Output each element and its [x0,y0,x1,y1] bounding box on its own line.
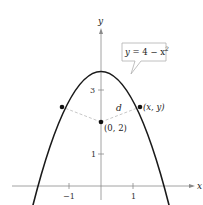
y-axis-label: y [97,16,104,26]
equation-callout: y = 4 − x2 [122,43,169,74]
distance-line-left [62,107,101,122]
y-axis-arrow-icon [99,28,103,34]
parabola-chart: x y −1 1 1 3 (0, 2) (x, y) d y = 4 − x2 [0,0,203,205]
y-tick-label-3: 3 [90,86,95,95]
point-xy-label: (x, y) [143,102,165,112]
distance-label: d [116,103,122,113]
callout-equation: y = 4 − x2 [124,45,169,57]
x-axis-arrow-icon [189,184,195,188]
point-center [99,120,104,125]
x-tick-label-1: 1 [131,192,136,201]
y-tick-label-1: 1 [91,150,96,159]
point-left [60,105,65,110]
point-xy [138,105,143,110]
x-tick-label-neg1: −1 [63,192,75,201]
x-axis-label: x [197,181,202,191]
point-center-label: (0, 2) [104,123,127,133]
